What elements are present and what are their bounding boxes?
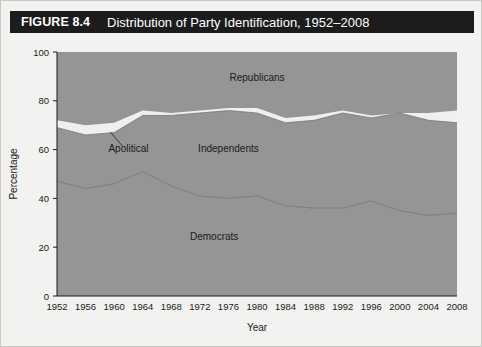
x-tick-label: 1976 xyxy=(218,301,239,312)
x-tick-label: 1988 xyxy=(304,301,325,312)
x-axis-title: Year xyxy=(247,322,268,333)
y-tick-label: 0 xyxy=(44,291,49,302)
x-tick-label: 2004 xyxy=(418,301,439,312)
y-tick-label: 80 xyxy=(38,95,49,106)
x-tick-label: 1996 xyxy=(361,301,382,312)
x-tick-label: 1960 xyxy=(104,301,125,312)
x-tick-label: 1964 xyxy=(132,301,153,312)
x-tick-label: 1968 xyxy=(161,301,182,312)
y-tick-label: 40 xyxy=(38,193,49,204)
series-annotation-independents: Independents xyxy=(198,143,259,154)
x-tick-label: 2000 xyxy=(389,301,410,312)
x-tick-label: 1972 xyxy=(189,301,210,312)
series-annotation-republicans: Republicans xyxy=(229,72,284,83)
figure-card: FIGURE 8.4 Distribution of Party Identif… xyxy=(0,0,482,347)
series-annotation-democrats: Democrats xyxy=(190,231,238,242)
x-tick-label: 1956 xyxy=(75,301,96,312)
y-tick-label: 60 xyxy=(38,144,49,155)
figure-number: FIGURE 8.4 xyxy=(21,15,90,29)
x-tick-label: 1980 xyxy=(246,301,267,312)
series-annotation-apolitical: Apolitical xyxy=(108,143,148,154)
x-axis-ticks: 1952195619601964196819721976198019841988… xyxy=(46,301,467,312)
y-axis-title: Percentage xyxy=(8,148,19,200)
y-tick-label: 20 xyxy=(38,242,49,253)
figure-title-bar: FIGURE 8.4 Distribution of Party Identif… xyxy=(10,11,474,33)
x-tick-label: 1992 xyxy=(332,301,353,312)
figure-title: Distribution of Party Identification, 19… xyxy=(107,15,369,30)
party-identification-area-chart: 020406080100 195219561960196419681972197… xyxy=(1,35,482,347)
chart-region: 020406080100 195219561960196419681972197… xyxy=(1,35,482,347)
x-tick-label: 1952 xyxy=(46,301,67,312)
x-tick-label: 2008 xyxy=(446,301,467,312)
x-tick-label: 1984 xyxy=(275,301,296,312)
y-axis-ticks: 020406080100 xyxy=(33,47,57,302)
y-tick-label: 100 xyxy=(33,47,49,58)
stacked-area-bands xyxy=(57,52,457,296)
